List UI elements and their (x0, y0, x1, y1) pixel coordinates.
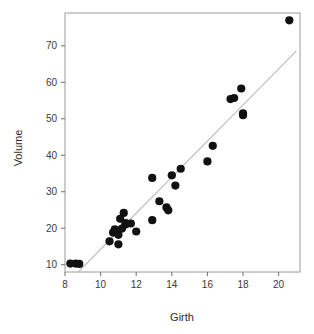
data-point (75, 260, 83, 268)
y-tick-label: 30 (46, 186, 58, 197)
y-axis-title: Volume (12, 130, 24, 167)
y-tick-label: 60 (46, 77, 58, 88)
data-point (164, 206, 172, 214)
y-tick-label: 50 (46, 113, 58, 124)
data-point (203, 157, 211, 165)
scatter-plot-figure: 8101214161820 10203040506070 Girth Volum… (0, 0, 314, 334)
y-tick-label: 10 (46, 259, 58, 270)
data-point (127, 219, 135, 227)
y-tick-label: 20 (46, 223, 58, 234)
x-tick-label: 16 (202, 279, 214, 290)
data-point (120, 209, 128, 217)
data-point (105, 237, 113, 245)
data-point (237, 84, 245, 92)
data-point (155, 197, 163, 205)
data-point (285, 16, 293, 24)
x-tick-label: 14 (166, 279, 178, 290)
x-tick-label: 20 (273, 279, 285, 290)
data-point (209, 142, 217, 150)
data-point (239, 111, 247, 119)
data-point (177, 165, 185, 173)
plot-border (65, 13, 300, 272)
x-axis-title: Girth (170, 311, 194, 323)
data-point (230, 94, 238, 102)
x-tick-label: 8 (62, 279, 68, 290)
data-point (171, 181, 179, 189)
data-point (114, 240, 122, 248)
x-tick-label: 10 (95, 279, 107, 290)
y-tick-label: 70 (46, 40, 58, 51)
data-point (148, 216, 156, 224)
y-tick-label: 40 (46, 150, 58, 161)
chart-canvas: 8101214161820 10203040506070 Girth Volum… (0, 0, 314, 334)
x-tick-label: 12 (131, 279, 143, 290)
plot-frame (65, 13, 300, 272)
data-point (132, 227, 140, 235)
x-tick-label: 18 (237, 279, 249, 290)
data-point (148, 174, 156, 182)
data-point (168, 171, 176, 179)
y-axis-ticks: 10203040506070 (46, 40, 65, 270)
data-points (66, 16, 293, 268)
x-axis-ticks: 8101214161820 (62, 272, 284, 290)
